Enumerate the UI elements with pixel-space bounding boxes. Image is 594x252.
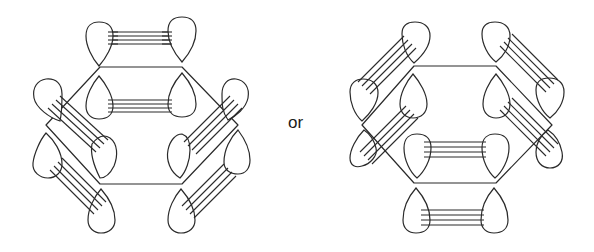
lobe — [168, 17, 196, 62]
lobe — [481, 188, 508, 233]
lobe — [168, 134, 191, 178]
right-hexagon-outline — [362, 66, 552, 183]
lobe — [224, 130, 250, 174]
right-bottom-inner-pair — [404, 134, 509, 178]
lobe — [168, 73, 196, 117]
or-separator-label: or — [288, 113, 303, 133]
lobe — [33, 133, 62, 178]
lobe — [482, 22, 510, 62]
lobe — [404, 134, 431, 178]
bond-lines — [108, 32, 172, 44]
lobe — [168, 189, 195, 233]
lobe — [483, 74, 510, 118]
right-arrangement-diagram — [350, 22, 564, 233]
lobe — [350, 79, 378, 121]
right-bottom-outer-pair — [403, 188, 508, 233]
left-arrangement-diagram — [33, 17, 250, 233]
left-top-outer-pair — [86, 17, 196, 66]
lobe — [482, 134, 509, 178]
left-top-inner-pair — [86, 73, 196, 119]
lobe — [86, 76, 113, 119]
lobe — [400, 74, 427, 118]
lobe — [91, 136, 116, 178]
lobe — [34, 79, 62, 121]
bond-lines — [108, 100, 172, 112]
bond-lines — [424, 142, 486, 157]
